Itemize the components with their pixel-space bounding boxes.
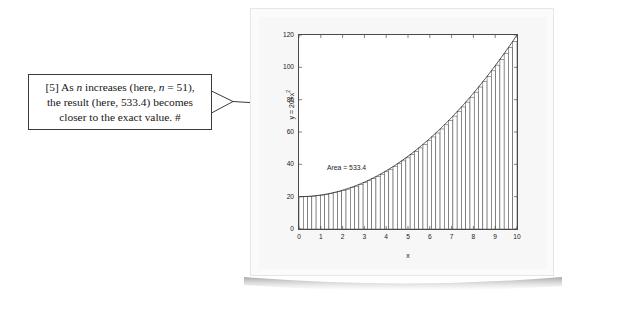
- area-annotation: Area = 533.4: [327, 164, 366, 171]
- y-tick-label: 40: [272, 160, 294, 167]
- x-tick-label: 4: [378, 233, 394, 240]
- x-tick-label: 6: [422, 233, 438, 240]
- annotation-callout: [5] As n increases (here, n = 51), the r…: [28, 74, 214, 132]
- annotation-line-1: [5] As n increases (here, n = 51),: [45, 80, 194, 95]
- x-tick-label: 8: [465, 233, 481, 240]
- riemann-rectangles: [299, 41, 517, 229]
- annotation-text: [5] As n increases (here, n = 51), the r…: [28, 74, 212, 130]
- y-tick-label: 20: [272, 193, 294, 200]
- x-tick-label: 0: [291, 233, 307, 240]
- x-tick-label: 7: [444, 233, 460, 240]
- annotation-line-3: closer to the exact value. #: [59, 110, 180, 125]
- x-axis-label: x: [298, 252, 518, 259]
- x-tick-label: 10: [509, 233, 525, 240]
- x-tick-label: 9: [487, 233, 503, 240]
- scanned-page: [5] As n increases (here, n = 51), the r…: [0, 0, 619, 313]
- plot-axes: [298, 34, 518, 230]
- y-axis-label: y = 20+x2: [285, 70, 294, 140]
- x-tick-label: 2: [335, 233, 351, 240]
- y-tick-label: 120: [272, 31, 294, 38]
- x-tick-label: 1: [313, 233, 329, 240]
- page-curl-shadow: [244, 276, 562, 296]
- annotation-line-2: the result (here, 533.4) becomes: [47, 95, 193, 110]
- x-tick-label: 3: [356, 233, 372, 240]
- x-tick-label: 5: [400, 233, 416, 240]
- plot-area: [299, 35, 517, 229]
- y-tick-label: 0: [272, 225, 294, 232]
